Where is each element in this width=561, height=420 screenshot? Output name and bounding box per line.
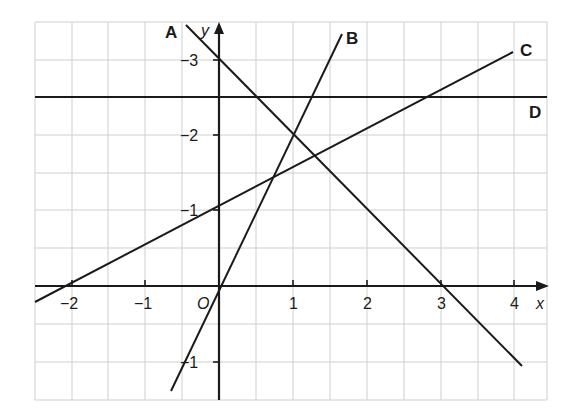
x-tick-label: 1 [289,295,298,312]
line-a-label: A [165,23,177,42]
origin-label: O [197,295,209,312]
coordinate-graph: −2 −1 1 2 3 4 −3 −2 −1 −1 x y O A B C D [0,0,561,420]
line-b-label: B [346,29,358,48]
grid [35,22,547,400]
line-d-label: D [529,103,541,122]
x-axis [35,281,549,291]
x-tick-label: 2 [363,295,372,312]
x-tick-label: −1 [134,295,152,312]
y-axis-arrow-icon [214,22,224,34]
y-tick-label: −1 [180,354,198,371]
y-tick-label: −2 [180,127,198,144]
x-axis-label: x [535,295,545,312]
line-c-label: C [520,41,532,60]
x-tick-label: 4 [510,295,519,312]
y-axis-label: y [200,22,210,39]
y-tick-label: −3 [180,52,198,69]
y-tick-label: −1 [180,202,198,219]
x-tick-label: 3 [437,295,446,312]
line-a [186,25,522,366]
x-tick-label: −2 [60,295,78,312]
y-axis [214,22,224,400]
